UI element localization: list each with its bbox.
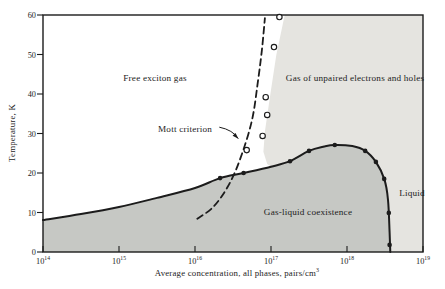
coexistence-data-points bbox=[288, 159, 293, 164]
y-tick-label: 30 bbox=[28, 129, 36, 138]
mott-open-circles bbox=[263, 95, 268, 100]
x-axis-title: Average concentration, all phases, pairs… bbox=[155, 267, 320, 278]
coexistence-data-points bbox=[241, 171, 246, 176]
x-tick-label: 1015 bbox=[112, 255, 126, 266]
coexistence-data-points bbox=[333, 143, 338, 148]
y-tick-label: 20 bbox=[28, 169, 36, 178]
x-tick-exponent: 14 bbox=[44, 255, 50, 261]
coexistence-data-points bbox=[387, 243, 392, 248]
x-tick-exponent: 15 bbox=[120, 255, 126, 261]
y-tick-label: 40 bbox=[28, 90, 36, 99]
y-tick-label: 60 bbox=[28, 11, 36, 20]
x-axis-title-text: Average concentration, all phases, pairs… bbox=[155, 268, 316, 278]
x-tick-exponent: 16 bbox=[196, 255, 202, 261]
mott-open-circles bbox=[271, 44, 276, 49]
x-axis-title-exponent: 3 bbox=[316, 267, 319, 273]
phase-diagram-canvas bbox=[0, 0, 445, 289]
coexistence-data-points bbox=[363, 149, 368, 154]
y-axis-title: Temperature, K bbox=[7, 104, 17, 162]
y-tick-label: 50 bbox=[28, 50, 36, 59]
mott-open-circles bbox=[277, 14, 282, 19]
mott-open-circles bbox=[260, 133, 265, 138]
x-tick-label: 1014 bbox=[36, 255, 50, 266]
x-tick-exponent: 18 bbox=[348, 255, 354, 261]
region-label-gas-unpaired: Gas of unpaired electrons and holes bbox=[286, 73, 424, 83]
x-tick-label: 1016 bbox=[188, 255, 202, 266]
gas-liquid-coexistence-region bbox=[43, 145, 390, 252]
mott-open-circles bbox=[265, 112, 270, 117]
phase-diagram-figure: 0102030405060101410151016101710181019 Fr… bbox=[0, 0, 445, 289]
coexistence-data-points bbox=[307, 149, 312, 154]
x-tick-label: 1017 bbox=[264, 255, 278, 266]
coexistence-data-points bbox=[387, 211, 392, 216]
region-label-gas-liquid-coexistence: Gas-liquid coexistence bbox=[264, 207, 352, 217]
mott-criterion-label: Mott criterion bbox=[158, 124, 212, 134]
x-tick-label: 1018 bbox=[340, 255, 354, 266]
region-label-free-exciton-gas: Free exciton gas bbox=[123, 73, 186, 83]
x-tick-exponent: 19 bbox=[424, 255, 430, 261]
coexistence-data-points bbox=[218, 176, 223, 181]
x-tick-exponent: 17 bbox=[272, 255, 278, 261]
mott-open-circles bbox=[244, 147, 249, 152]
x-tick-label: 1019 bbox=[416, 255, 430, 266]
coexistence-data-points bbox=[374, 160, 379, 165]
coexistence-data-points bbox=[382, 177, 387, 182]
region-label-liquid: Liquid bbox=[399, 188, 425, 198]
y-tick-label: 10 bbox=[28, 208, 36, 217]
